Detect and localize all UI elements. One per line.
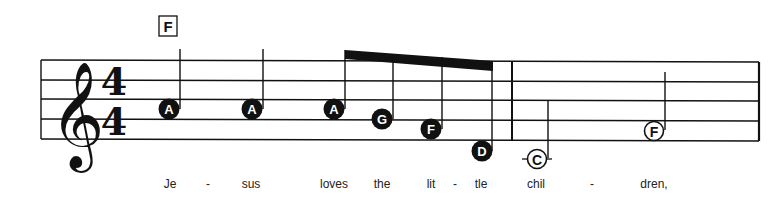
svg-text:F: F: [427, 122, 435, 137]
time-signature: 4 4: [101, 59, 127, 144]
lyric-syllable: chil: [527, 177, 545, 191]
lyric-syllable: Je: [164, 177, 177, 191]
svg-text:A: A: [164, 102, 174, 117]
time-signature-numerator: 4: [101, 59, 127, 104]
note-a-quarter: A: [159, 49, 181, 120]
chord-symbol-box: F: [159, 16, 177, 36]
lyric-syllable: loves: [320, 177, 348, 191]
time-signature-denominator: 4: [101, 99, 127, 144]
eighth-note-beam: [345, 50, 493, 71]
lyric-syllable: lit: [427, 177, 436, 191]
svg-text:G: G: [377, 112, 387, 127]
treble-clef-icon: 𝄞: [50, 61, 104, 173]
note-d-eighth: D: [472, 61, 493, 162]
note-a-quarter: A: [242, 49, 264, 120]
note-g-eighth: G: [372, 54, 394, 130]
lyric-hyphen: -: [206, 177, 210, 191]
chord-symbol-label: F: [163, 18, 172, 35]
svg-text:D: D: [477, 144, 486, 159]
svg-text:C: C: [532, 152, 542, 168]
note-c-half: C: [522, 101, 552, 169]
lyric-hyphen: -: [453, 177, 457, 191]
svg-text:F: F: [650, 124, 659, 140]
note-f-eighth: F: [421, 57, 443, 140]
lyric-syllable: the: [374, 177, 391, 191]
lyric-syllable: tle: [475, 177, 488, 191]
svg-text:A: A: [247, 102, 257, 117]
lyric-syllable: sus: [242, 177, 261, 191]
lyric-hyphen: -: [590, 177, 594, 191]
music-staff-score: F 𝄞 4 4 A A A G: [0, 0, 783, 201]
svg-text:A: A: [329, 102, 339, 117]
lyric-syllable: dren,: [640, 177, 667, 191]
